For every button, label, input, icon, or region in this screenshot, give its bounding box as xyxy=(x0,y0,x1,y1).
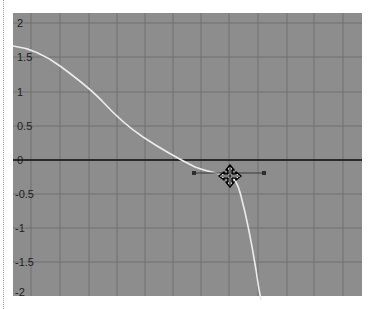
tangent-handle-right[interactable] xyxy=(262,171,266,175)
y-tick-label: 1.5 xyxy=(17,51,32,63)
y-tick-label: -1 xyxy=(15,222,25,234)
y-tick-label: -0.5 xyxy=(15,188,34,200)
plot-area[interactable] xyxy=(13,13,362,296)
graph-editor[interactable]: 2 1.5 1 0.5 0 -0.5 -1 -1.5 -2 xyxy=(0,0,373,309)
y-tick-label: -2 xyxy=(15,286,25,298)
y-tick-label: -1.5 xyxy=(15,256,34,268)
y-tick-label: 0.5 xyxy=(17,120,32,132)
y-tick-label: 2 xyxy=(17,17,23,29)
y-tick-label: 1 xyxy=(17,86,23,98)
y-tick-label: 0 xyxy=(17,154,23,166)
tangent-handle-left[interactable] xyxy=(192,171,196,175)
